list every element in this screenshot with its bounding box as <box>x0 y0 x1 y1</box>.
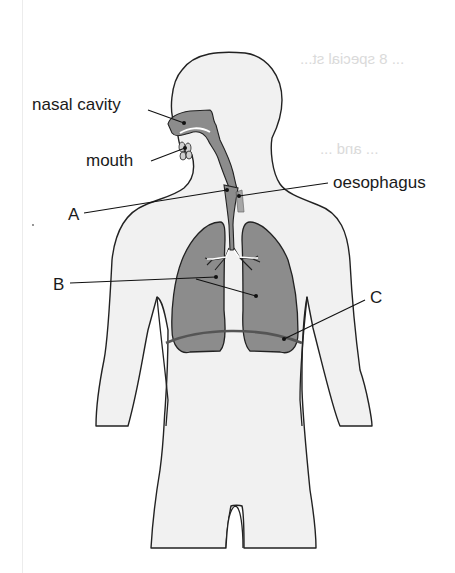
body-outline <box>96 52 372 548</box>
label-c: C <box>370 289 382 306</box>
label-oesophagus: oesophagus <box>333 174 426 191</box>
label-mouth: mouth <box>86 152 133 169</box>
respiratory-diagram <box>0 0 455 573</box>
teeth <box>179 142 192 160</box>
label-b: B <box>53 276 64 293</box>
stray-mark <box>32 224 34 226</box>
label-a: A <box>68 206 79 223</box>
label-nasal-cavity: nasal cavity <box>32 96 121 113</box>
